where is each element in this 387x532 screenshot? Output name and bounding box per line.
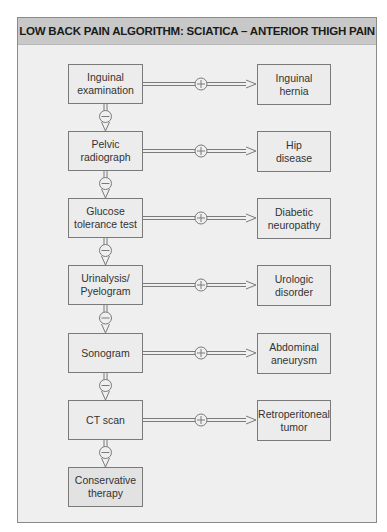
diagnosis-box-1: Inguinal hernia [257, 64, 331, 105]
test-box-6: CT scan [68, 400, 143, 440]
diagnosis-box-3: Diabetic neuropathy [257, 198, 331, 239]
test-box-4: Urinalysis/ Pyelogram [68, 265, 143, 305]
diagram-title: LOW BACK PAIN ALGORITHM: SCIATICA – ANTE… [19, 25, 375, 37]
test-box-5: Sonogram [68, 333, 143, 373]
diagnosis-box-5: Abdominal aneurysm [257, 333, 331, 374]
test-box-3: Glucose tolerance test [68, 198, 143, 238]
header-band: LOW BACK PAIN ALGORITHM: SCIATICA – ANTE… [18, 18, 376, 45]
diagnosis-box-6: Retroperitoneal tumor [257, 400, 331, 441]
test-box-2: Pelvic radiograph [68, 131, 143, 171]
diagnosis-box-2: Hip disease [257, 131, 331, 172]
test-box-1: Inguinal examination [68, 64, 143, 104]
diagnosis-box-4: Urologic disorder [257, 265, 331, 306]
conservative-therapy-box: Conservative therapy [68, 467, 143, 507]
